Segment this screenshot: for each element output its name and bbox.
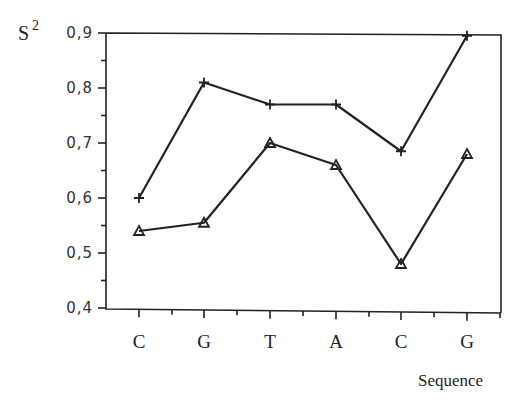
- x-tick-label: T: [264, 331, 276, 352]
- x-axis-title: Sequence: [418, 371, 483, 390]
- y-axis-title: S 2: [18, 18, 39, 44]
- y-tick-label: 0,8: [66, 79, 93, 97]
- series-layer: [134, 31, 472, 268]
- triangle-marker-icon: [462, 149, 472, 158]
- x-tick-label: C: [133, 331, 146, 352]
- y-tick-label: 0,5: [66, 244, 93, 262]
- y-tick-label: 0,7: [66, 134, 93, 152]
- plot-frame: [106, 33, 501, 313]
- line-chart: S 2 0,40,50,60,70,80,9 CGTACG Sequence: [0, 0, 513, 407]
- y-axis-title-superscript: 2: [32, 18, 39, 33]
- y-tick-label: 0,9: [66, 24, 93, 42]
- plus-marker-icon: [134, 193, 144, 203]
- x-tick-label: G: [197, 331, 211, 352]
- series-line-triangle: [139, 143, 467, 264]
- x-tick-label: A: [329, 331, 343, 352]
- y-tick-label: 0,6: [66, 189, 93, 207]
- x-tick-label: C: [395, 331, 408, 352]
- series-line-plus: [139, 36, 467, 198]
- plus-marker-icon: [199, 78, 209, 88]
- x-tick-label: G: [460, 331, 474, 352]
- y-axis-ticks: 0,40,50,60,70,80,9: [66, 24, 106, 317]
- x-axis-ticks: CGTACG: [133, 309, 500, 352]
- plus-marker-icon: [265, 100, 275, 110]
- y-tick-label: 0,4: [66, 299, 93, 317]
- y-axis-title-base: S: [18, 22, 29, 44]
- plus-marker-icon: [462, 31, 472, 41]
